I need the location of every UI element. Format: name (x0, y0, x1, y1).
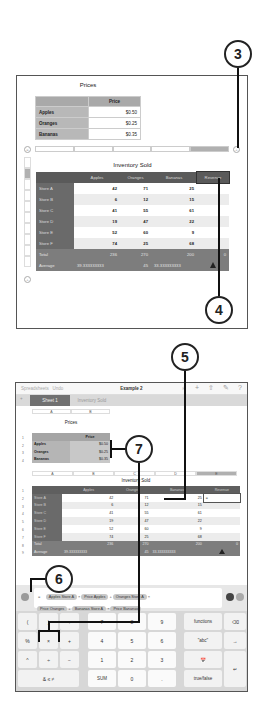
row-8-header[interactable] (24, 234, 31, 245)
tab-sheet-1[interactable]: Sheet 1 (30, 395, 70, 406)
key-9[interactable]: 9 (148, 613, 176, 630)
formula-options-button[interactable] (21, 593, 29, 601)
callout-5: 5 (171, 343, 199, 371)
accept-formula-button[interactable] (236, 593, 244, 601)
key-open-paren[interactable]: ( (18, 613, 37, 630)
warning-icon (210, 262, 216, 268)
key-comparison[interactable]: & ≤ ≠ (18, 670, 79, 687)
callout-7-key-plus (58, 630, 60, 642)
select-table-button[interactable]: = (24, 146, 31, 153)
wrench-icon[interactable]: ✎ (223, 384, 229, 392)
key-caret[interactable]: ^ (18, 651, 37, 668)
column-d-header[interactable] (151, 146, 190, 152)
callout-5-hline (164, 498, 186, 500)
callout-6-hline (30, 578, 46, 580)
table-row: Store B61215 (36, 194, 229, 205)
table-row: Store B61215 (32, 502, 240, 510)
formula-token[interactable]: Apples Store A (46, 594, 77, 600)
total-row: Total2362702000 (36, 249, 229, 260)
revenue-header-cell[interactable]: Revenue (197, 172, 229, 183)
key-minus[interactable]: − (60, 651, 79, 668)
key-percent[interactable]: % (18, 632, 37, 649)
row-1-header[interactable] (24, 157, 31, 168)
column-b-header[interactable] (74, 146, 113, 152)
date-time-key[interactable]: 📅 (184, 651, 222, 668)
table-row: Store F742568 (32, 533, 240, 541)
key-plus[interactable]: + (60, 632, 79, 649)
cancel-formula-button[interactable] (226, 593, 234, 601)
table-row: Store A427125 (36, 183, 229, 194)
key-6[interactable]: 6 (148, 632, 176, 649)
calendar-icon: 📅 (200, 657, 206, 663)
callout-5-line (184, 371, 186, 499)
callout-7: 7 (125, 435, 153, 463)
prices-table[interactable]: Price Apples$0.50 Oranges$0.25 Bananas$0… (32, 433, 110, 463)
callout-4: 4 (205, 296, 233, 324)
plus-icon[interactable]: + (195, 384, 199, 392)
row-9-header[interactable] (24, 245, 31, 256)
table-row: Store E52609 (36, 227, 229, 238)
key-2[interactable]: 2 (118, 651, 146, 668)
key-4[interactable]: 4 (88, 632, 116, 649)
column-c-header[interactable] (113, 146, 152, 152)
column-header-strip[interactable] (35, 146, 229, 152)
key-divide[interactable]: ÷ (39, 651, 58, 668)
row-2-header[interactable] (24, 168, 31, 179)
table-row: Store C415561 (32, 509, 240, 517)
functions-button[interactable]: functions (184, 613, 222, 630)
text-key[interactable]: "abc" (184, 632, 222, 649)
formula-token[interactable]: Price Apples (81, 594, 108, 600)
callout-6-line (30, 578, 32, 592)
column-e-header[interactable] (190, 146, 229, 152)
average-row: Average39.3333333334533.333333333 (36, 260, 229, 271)
ipad-numbers-app: Spreadsheets Undo Example 2 ⌕ + ⇧ ✎ ? + … (15, 382, 248, 692)
sheet-tabs: + Sheet 1 Inventory Sold (16, 395, 247, 406)
callout-4-line (218, 178, 220, 296)
revenue-editing-cell[interactable]: = (204, 494, 240, 502)
delete-key[interactable]: ⌫ (224, 613, 246, 630)
callout-6: 6 (45, 565, 73, 593)
table-row: Store D194722 (36, 216, 229, 227)
warning-icon (219, 549, 225, 554)
callout-7-bracket (110, 440, 112, 458)
table-row: Store C415561 (36, 205, 229, 216)
row-6-header[interactable] (24, 212, 31, 223)
callout-7-key-x (38, 630, 40, 642)
sum-key[interactable]: SUM (88, 670, 116, 687)
key-multiply[interactable]: × (39, 632, 58, 649)
row-header-strip[interactable] (24, 157, 31, 267)
row-7-header[interactable] (24, 223, 31, 234)
key-1[interactable]: 1 (88, 651, 116, 668)
row-3-header[interactable] (24, 179, 31, 190)
help-icon[interactable]: ? (238, 384, 242, 392)
row-5-header[interactable] (24, 201, 31, 212)
row-4-header[interactable] (24, 190, 31, 201)
table-row: Store E52609 (32, 525, 240, 533)
key-5[interactable]: 5 (118, 632, 146, 649)
tab-inventory-sold[interactable]: Inventory Sold (72, 395, 112, 406)
row-10-header[interactable] (24, 256, 31, 267)
row-numbers: 123456789 (22, 488, 24, 558)
callout-7-keys-bracket (38, 630, 60, 632)
column-a-header[interactable] (35, 146, 74, 152)
key-decimal[interactable]: . (148, 670, 176, 687)
prices-table[interactable]: Price Apples$0.50 Oranges$0.25 Bananas$0… (35, 96, 141, 140)
prices-col-header[interactable]: A B (32, 409, 110, 414)
add-row-button[interactable]: + (24, 276, 31, 283)
return-key[interactable]: ↵ (224, 651, 246, 687)
key-3[interactable]: 3 (148, 651, 176, 668)
share-icon[interactable]: ⇧ (208, 384, 214, 392)
formula-token[interactable]: Oranges Store A (113, 594, 147, 600)
prices-table-title: Prices (32, 420, 110, 425)
row-numbers: 1234 (22, 435, 24, 465)
true-false-key[interactable]: true/false (184, 670, 222, 687)
inventory-table[interactable]: Apples Oranges Bananas Revenue Store A42… (32, 486, 240, 556)
average-row: Average39.3333333334533.333333333 (32, 548, 240, 556)
inventory-table-title: Inventory Sold (32, 478, 240, 483)
app-toolbar: Spreadsheets Undo Example 2 ⌕ + ⇧ ✎ ? (16, 383, 247, 395)
key-0[interactable]: 0 (118, 670, 146, 687)
inventory-col-header[interactable]: A B C D E (32, 471, 237, 476)
inventory-table[interactable]: Apples Oranges Bananas Revenue Store A42… (36, 172, 229, 271)
next-arrow-key[interactable]: → (224, 632, 246, 649)
add-sheet-button[interactable]: + (20, 396, 23, 401)
